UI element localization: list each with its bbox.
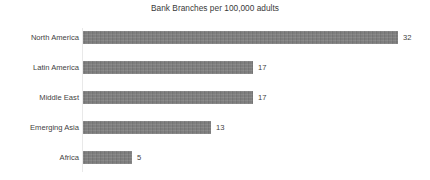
value-label-africa: 5 [137, 151, 141, 164]
chart-title: Bank Branches per 100,000 adults [0, 3, 430, 13]
bar-row: Middle East 17 [0, 91, 430, 104]
bar-north-america [83, 31, 398, 44]
category-label-africa: Africa [0, 151, 79, 164]
value-label-latin-america: 17 [258, 61, 266, 74]
bar-emerging-asia [83, 121, 211, 134]
bar-africa [83, 151, 132, 164]
plot-area: North America 32 Latin America 17 Middle… [0, 25, 430, 175]
value-label-middle-east: 17 [258, 91, 266, 104]
value-label-north-america: 32 [403, 31, 411, 44]
bar-middle-east [83, 91, 253, 104]
category-label-emerging-asia: Emerging Asia [0, 121, 79, 134]
bar-chart: Bank Branches per 100,000 adults North A… [0, 0, 430, 180]
bar-row: Latin America 17 [0, 61, 430, 74]
category-label-north-america: North America [0, 31, 79, 44]
category-label-middle-east: Middle East [0, 91, 79, 104]
bar-latin-america [83, 61, 253, 74]
category-label-latin-america: Latin America [0, 61, 79, 74]
bar-row: Africa 5 [0, 151, 430, 164]
bar-row: Emerging Asia 13 [0, 121, 430, 134]
bar-row: North America 32 [0, 31, 430, 44]
value-label-emerging-asia: 13 [216, 121, 224, 134]
